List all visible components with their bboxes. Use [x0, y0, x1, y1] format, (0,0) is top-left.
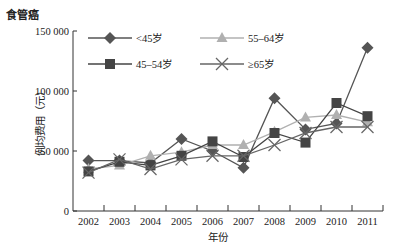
legend: <45岁55–64岁45–54岁≥65岁 — [88, 32, 284, 70]
diamond-marker — [362, 42, 374, 54]
legend-item: ≥65岁 — [200, 58, 274, 70]
y-tick-label: 150 000 — [35, 26, 69, 37]
legend-item: 55–64岁 — [200, 32, 284, 44]
square-marker — [208, 136, 218, 146]
y-tick-label: 0 — [64, 206, 69, 217]
x-tick-label: 2009 — [295, 216, 316, 227]
square-marker — [270, 128, 280, 138]
x-tick-label: 2007 — [233, 216, 254, 227]
x-tick-label: 2010 — [326, 216, 347, 227]
y-axis-label: 例均费用（元） — [34, 86, 46, 156]
x-tick-label: 2002 — [78, 216, 99, 227]
series-0 — [83, 42, 374, 174]
series-2 — [84, 98, 373, 176]
square-marker — [105, 59, 115, 69]
legend-label: <45岁 — [136, 32, 162, 44]
triangle-marker — [300, 111, 311, 121]
diamond-marker — [104, 32, 116, 44]
square-marker — [239, 152, 249, 162]
x-axis-label: 年份 — [208, 231, 229, 243]
x-tick-label: 2003 — [109, 216, 130, 227]
x-tick-label: 2006 — [202, 216, 223, 227]
x-tick-label: 2011 — [357, 216, 378, 227]
square-marker — [332, 98, 342, 108]
diamond-marker — [238, 162, 250, 174]
x-tick-label: 2005 — [171, 216, 192, 227]
diamond-marker — [176, 133, 188, 145]
triangle-marker — [217, 32, 228, 42]
legend-label: 45–54岁 — [136, 58, 172, 70]
x-tick-label: 2004 — [140, 216, 162, 227]
square-marker — [115, 157, 125, 167]
legend-item: 45–54岁 — [88, 58, 172, 70]
legend-label: 55–64岁 — [248, 32, 284, 44]
square-marker — [301, 138, 311, 148]
legend-item: <45岁 — [88, 32, 162, 44]
line-chart: 050 000100 000150 0002002200320042005200… — [0, 0, 401, 252]
legend-label: ≥65岁 — [248, 58, 274, 70]
series-1 — [83, 109, 373, 173]
square-marker — [363, 111, 373, 121]
x-tick-label: 2008 — [264, 216, 285, 227]
